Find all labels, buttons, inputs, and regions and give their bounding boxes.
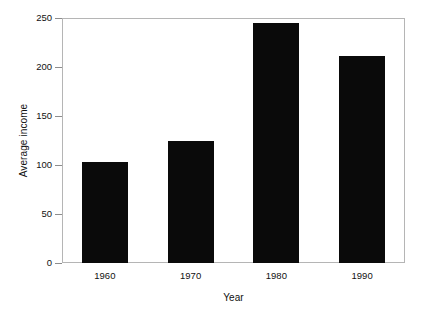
bars-container	[62, 18, 405, 263]
y-axis-tick-label: 0	[24, 258, 52, 268]
y-axis-tick-label-wrap: 250	[20, 13, 52, 23]
y-axis-tick-label-wrap: 50	[20, 209, 52, 219]
y-axis-tick-label: 100	[24, 160, 52, 170]
bar	[168, 141, 214, 264]
y-axis-tick-label-wrap: 200	[20, 62, 52, 72]
y-axis-tick-label: 150	[24, 111, 52, 121]
x-axis-tick-label: 1960	[62, 270, 148, 281]
x-axis-tick-label: 1980	[234, 270, 320, 281]
bar	[82, 162, 128, 263]
bar-slot	[62, 18, 148, 263]
bar	[339, 56, 385, 263]
bar-slot	[234, 18, 320, 263]
y-axis-tick	[55, 263, 62, 264]
x-axis-tick-label: 1970	[148, 270, 234, 281]
y-axis-tick	[55, 116, 62, 117]
bar-chart-figure: Average income 050100150200250 196019701…	[0, 0, 421, 316]
bar-slot	[319, 18, 405, 263]
x-axis-tick-label: 1990	[319, 270, 405, 281]
y-axis-tick-label-wrap: 150	[20, 111, 52, 121]
bar-slot	[148, 18, 234, 263]
y-axis-tick-label: 250	[24, 13, 52, 23]
y-axis-tick-label-wrap: 100	[20, 160, 52, 170]
x-axis-tick-labels: 1960197019801990	[62, 270, 405, 281]
y-axis-tick	[55, 165, 62, 166]
y-axis-tick	[55, 214, 62, 215]
x-axis-title: Year	[62, 292, 405, 303]
bar	[253, 23, 299, 263]
y-axis-tick-label: 200	[24, 62, 52, 72]
y-axis-tick-label: 50	[24, 209, 52, 219]
y-axis-title: Average income	[17, 18, 31, 263]
y-axis-tick	[55, 67, 62, 68]
y-axis-tick-label-wrap: 0	[20, 258, 52, 268]
y-axis-tick	[55, 18, 62, 19]
